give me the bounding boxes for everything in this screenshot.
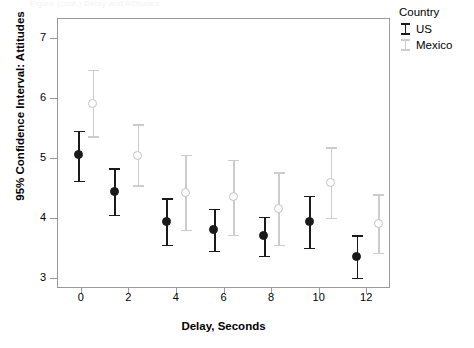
error-bar-cap-upper xyxy=(109,168,120,170)
legend-item-mexico[interactable]: Mexico xyxy=(399,37,474,53)
y-tick-label: 6 xyxy=(26,92,46,103)
y-tick-mark xyxy=(50,218,57,219)
y-tick-label: 7 xyxy=(26,32,46,43)
error-bar-cap-upper xyxy=(88,70,99,72)
y-tick-label: 3 xyxy=(26,272,46,283)
legend-item-us[interactable]: US xyxy=(399,21,474,37)
y-tick-mark xyxy=(50,98,57,99)
error-bar-cap-upper xyxy=(352,235,363,237)
error-bar-cap-upper xyxy=(259,217,270,219)
marker-mx xyxy=(274,204,283,213)
marker-mx xyxy=(133,151,142,160)
y-tick-mark xyxy=(50,38,57,39)
marker-us xyxy=(110,187,119,196)
error-bar-cap-lower xyxy=(373,253,384,255)
error-bar-cap-lower xyxy=(352,278,363,280)
marker-mx xyxy=(181,188,190,197)
marker-us xyxy=(209,225,218,234)
error-bar-cap-lower xyxy=(209,251,220,253)
x-tick-label: 8 xyxy=(259,292,283,303)
marker-mx xyxy=(88,99,97,108)
marker-us xyxy=(74,150,83,159)
error-bar-icon xyxy=(399,22,412,36)
error-bar-cap-upper xyxy=(373,194,384,196)
x-tick-label: 6 xyxy=(212,292,236,303)
y-tick-label: 4 xyxy=(26,212,46,223)
error-bar-cap-lower xyxy=(274,245,285,247)
error-bar-cap-lower xyxy=(162,245,173,247)
error-bar-cap-upper xyxy=(133,124,144,126)
error-bar-cap-upper xyxy=(74,131,85,133)
marker-mx xyxy=(326,178,335,187)
error-bar-cap-lower xyxy=(109,215,120,217)
marker-us xyxy=(259,231,268,240)
y-tick-mark xyxy=(50,278,57,279)
error-bar-cap-lower xyxy=(259,256,270,258)
x-tick-label: 4 xyxy=(164,292,188,303)
cropped-figure-title: Figure (cont.) Delay and Attitudes xyxy=(30,0,390,8)
error-bar-cap-lower xyxy=(74,181,85,183)
error-bar-cap-upper xyxy=(228,160,239,162)
legend: Country US Mexico xyxy=(399,6,474,53)
legend-item-label: US xyxy=(416,23,432,35)
error-bar-cap-upper xyxy=(162,198,173,200)
marker-us xyxy=(305,217,314,226)
marker-us xyxy=(352,252,361,261)
y-tick-mark xyxy=(50,158,57,159)
x-tick-label: 2 xyxy=(116,292,140,303)
error-bar-cap-lower xyxy=(326,218,337,220)
error-bar-cap-upper xyxy=(181,155,192,157)
confidence-interval-chart: Figure (cont.) Delay and Attitudes 95% C… xyxy=(0,0,474,348)
error-bar-cap-upper xyxy=(304,196,315,198)
legend-title: Country xyxy=(399,6,474,18)
plot-area xyxy=(57,18,390,288)
x-tick-label: 0 xyxy=(69,292,93,303)
error-bar-cap-upper xyxy=(274,172,285,174)
x-axis-label: Delay, Seconds xyxy=(57,320,390,332)
error-bar-icon xyxy=(399,38,412,52)
x-tick-label: 10 xyxy=(307,292,331,303)
error-bar-cap-upper xyxy=(209,209,220,211)
y-axis-label: 95% Confidence Interval: Attitudes xyxy=(14,0,26,244)
marker-mx xyxy=(374,219,383,228)
legend-item-label: Mexico xyxy=(416,39,452,51)
error-bar-cap-lower xyxy=(88,136,99,138)
error-bar-cap-lower xyxy=(304,248,315,250)
y-tick-label: 5 xyxy=(26,152,46,163)
error-bar-cap-lower xyxy=(228,235,239,237)
error-bar-cap-upper xyxy=(326,147,337,149)
error-bar-cap-lower xyxy=(181,230,192,232)
error-bar-cap-lower xyxy=(133,185,144,187)
marker-mx xyxy=(229,192,238,201)
marker-us xyxy=(162,217,171,226)
x-tick-label: 12 xyxy=(354,292,378,303)
